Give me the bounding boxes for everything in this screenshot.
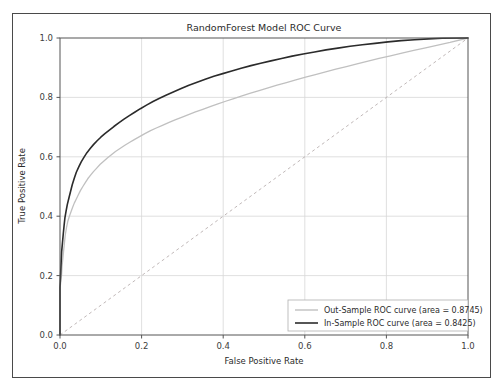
x-tick-label: 0.2 (135, 341, 149, 351)
legend-label-in-sample: In-Sample ROC curve (area = 0.8425) (324, 319, 476, 328)
y-tick-label: 0.8 (39, 92, 53, 102)
x-tick-label: 1.0 (461, 341, 475, 351)
legend-label-out-sample: Out-Sample ROC curve (area = 0.8745) (324, 306, 483, 315)
x-tick-label: 0.6 (298, 341, 312, 351)
y-tick-label: 0.4 (39, 211, 53, 221)
roc-chart: 0.00.20.40.60.81.0 0.00.20.40.60.81.0 Ra… (0, 0, 503, 385)
x-axis-ticks: 0.00.20.40.60.81.0 (53, 335, 475, 351)
y-axis-title: True Positive Rate (17, 148, 27, 225)
y-tick-label: 1.0 (39, 33, 53, 43)
x-tick-label: 0.4 (216, 341, 230, 351)
y-tick-label: 0.0 (39, 330, 53, 340)
y-axis-ticks: 0.00.20.40.60.81.0 (39, 33, 60, 340)
y-tick-label: 0.2 (39, 271, 53, 281)
legend: Out-Sample ROC curve (area = 0.8745) In-… (288, 300, 483, 331)
x-tick-label: 0.0 (53, 341, 67, 351)
x-axis-title: False Positive Rate (225, 356, 304, 366)
chart-title: RandomForest Model ROC Curve (187, 22, 342, 33)
x-tick-label: 0.8 (380, 341, 394, 351)
y-tick-label: 0.6 (39, 152, 53, 162)
